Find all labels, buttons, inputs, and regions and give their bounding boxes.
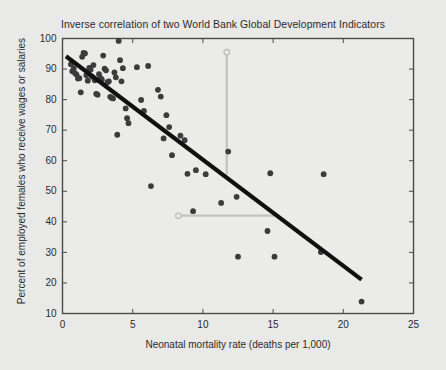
scatter-plot-canvas: 1020304050607080901000510152025 (0, 0, 446, 370)
svg-text:90: 90 (45, 63, 57, 74)
chart-figure: Inverse correlation of two World Bank Gl… (0, 0, 446, 370)
svg-text:20: 20 (338, 319, 350, 330)
svg-text:30: 30 (45, 247, 57, 258)
svg-text:20: 20 (45, 277, 57, 288)
svg-text:60: 60 (45, 155, 57, 166)
svg-text:40: 40 (45, 216, 57, 227)
svg-text:0: 0 (60, 319, 66, 330)
svg-text:25: 25 (408, 319, 420, 330)
svg-text:10: 10 (197, 319, 209, 330)
svg-text:70: 70 (45, 124, 57, 135)
svg-text:80: 80 (45, 94, 57, 105)
svg-text:50: 50 (45, 185, 57, 196)
svg-text:10: 10 (45, 308, 57, 319)
svg-text:5: 5 (130, 319, 136, 330)
svg-text:15: 15 (268, 319, 280, 330)
svg-text:100: 100 (40, 33, 57, 44)
